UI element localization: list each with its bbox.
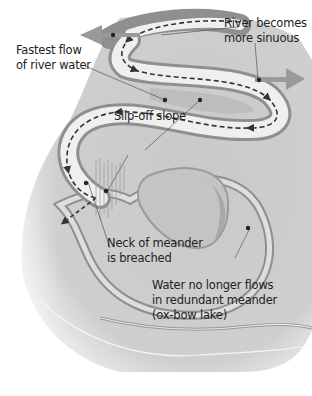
label-river-sinuous: River becomes more sinuous — [224, 16, 310, 45]
label-slip-off-slope: Slip-off slope — [114, 109, 186, 123]
diagram-canvas: Fastest flow of river water River become… — [0, 0, 312, 396]
label-fastest-flow: Fastest flow of river water — [16, 43, 91, 72]
oxbow-diagram: Fastest flow of river water River become… — [0, 0, 312, 396]
